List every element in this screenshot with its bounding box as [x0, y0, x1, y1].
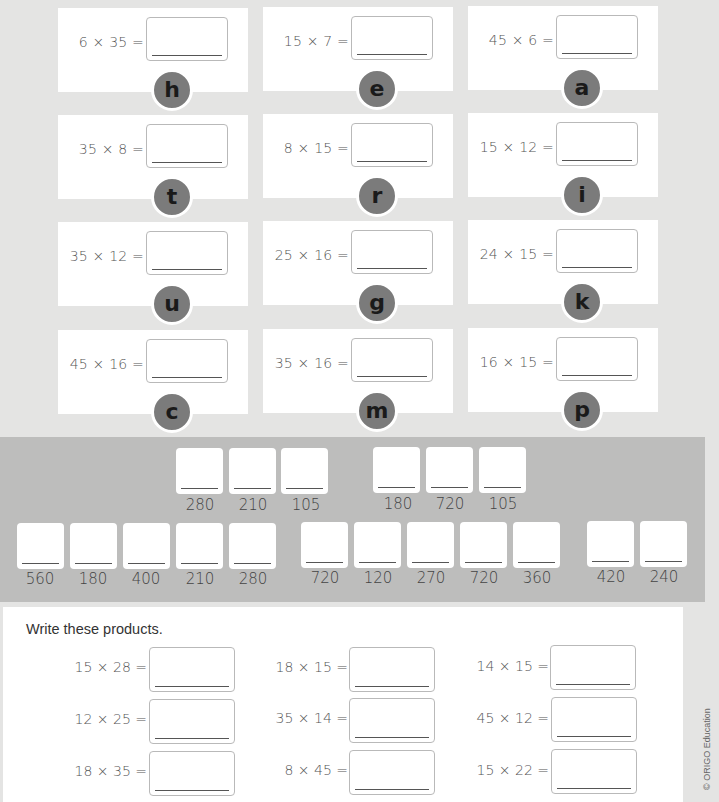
equation: 35 × 12 =	[70, 248, 144, 264]
equation: 35 × 8 =	[79, 141, 144, 157]
product-equation: 15 × 22 =	[439, 762, 549, 778]
code-card-c: 45 × 16 = c	[58, 330, 248, 414]
equation: 24 × 15 =	[480, 246, 554, 262]
equation: 15 × 12 =	[480, 139, 554, 155]
code-card-p: 16 × 15 = p	[468, 328, 658, 412]
decoder-number: 210	[225, 496, 281, 514]
answer-box[interactable]	[146, 124, 228, 168]
letter-badge: p	[561, 389, 603, 431]
decoder-box[interactable]	[587, 521, 634, 567]
equation: 45 × 16 =	[70, 356, 144, 372]
product-answer-box[interactable]	[149, 699, 235, 744]
letter-badge: i	[561, 174, 603, 216]
decoder-box[interactable]	[281, 448, 328, 494]
decoder-box[interactable]	[460, 522, 507, 568]
decoder-box[interactable]	[354, 522, 401, 568]
decoder-number: 210	[172, 570, 228, 588]
product-equation: 45 × 12 =	[439, 710, 549, 726]
answer-box[interactable]	[146, 17, 228, 61]
letter-badge: g	[356, 282, 398, 324]
decoder-number: 240	[636, 568, 692, 586]
answer-box[interactable]	[351, 16, 433, 60]
code-card-m: 35 × 16 = m	[263, 329, 453, 413]
answer-box[interactable]	[351, 123, 433, 167]
decoder-box[interactable]	[640, 521, 687, 567]
letter-badge: m	[356, 390, 398, 432]
decoder-box[interactable]	[176, 448, 223, 494]
product-answer-box[interactable]	[149, 647, 235, 692]
equation: 16 × 15 =	[480, 354, 554, 370]
product-equation: 35 × 14 =	[238, 710, 348, 726]
decoder-box[interactable]	[479, 447, 526, 493]
decoder-number: 120	[350, 569, 406, 587]
product-equation: 18 × 15 =	[238, 659, 348, 675]
code-card-h: 6 × 35 = h	[58, 8, 248, 92]
product-answer-box[interactable]	[349, 750, 435, 795]
decoder-box[interactable]	[17, 523, 64, 569]
decoder-box[interactable]	[70, 523, 117, 569]
answer-box[interactable]	[556, 337, 638, 381]
decoder-number: 360	[509, 569, 565, 587]
decoder-number: 280	[172, 496, 228, 514]
decoder-number: 420	[583, 568, 639, 586]
code-card-i: 15 × 12 = i	[468, 113, 658, 197]
products-panel: Write these products. 15 × 28 = 18 × 15 …	[3, 607, 683, 802]
decoder-band: 280 210 105 180 720 105 560 180 400 210 …	[0, 437, 705, 602]
decoder-number: 720	[297, 569, 353, 587]
answer-box[interactable]	[351, 338, 433, 382]
equation: 45 × 6 =	[489, 32, 554, 48]
code-card-e: 15 × 7 = e	[263, 7, 453, 91]
decoder-number: 560	[12, 570, 68, 588]
answer-box[interactable]	[146, 339, 228, 383]
answer-box[interactable]	[351, 230, 433, 274]
equation: 25 × 16 =	[275, 247, 349, 263]
decoder-number: 105	[278, 496, 334, 514]
product-equation: 8 × 45 =	[238, 762, 348, 778]
decoder-number: 720	[422, 495, 478, 513]
equation: 35 × 16 =	[275, 355, 349, 371]
letter-badge: t	[151, 176, 193, 218]
answer-box[interactable]	[556, 15, 638, 59]
instruction-text: Write these products.	[26, 621, 163, 637]
decoder-number: 270	[403, 569, 459, 587]
product-equation: 15 × 28 =	[37, 659, 147, 675]
equation: 15 × 7 =	[284, 33, 349, 49]
code-card-g: 25 × 16 = g	[263, 221, 453, 305]
product-answer-box[interactable]	[551, 697, 637, 742]
copyright-text: © ORIGO Education	[702, 708, 712, 790]
code-card-u: 35 × 12 = u	[58, 222, 248, 306]
answer-box[interactable]	[556, 229, 638, 273]
product-answer-box[interactable]	[550, 645, 636, 690]
decoder-box[interactable]	[229, 523, 276, 569]
letter-badge: a	[561, 67, 603, 109]
answer-box[interactable]	[556, 122, 638, 166]
product-answer-box[interactable]	[349, 647, 435, 692]
product-answer-box[interactable]	[149, 751, 235, 796]
equation: 6 × 35 =	[79, 34, 144, 50]
code-card-k: 24 × 15 = k	[468, 220, 658, 304]
letter-badge: r	[356, 175, 398, 217]
product-equation: 12 × 25 =	[37, 711, 147, 727]
decoder-box[interactable]	[123, 523, 170, 569]
decoder-box[interactable]	[229, 448, 276, 494]
decoder-box[interactable]	[373, 447, 420, 493]
decoder-box[interactable]	[176, 523, 223, 569]
decoder-box[interactable]	[301, 522, 348, 568]
equation: 8 × 15 =	[284, 140, 349, 156]
decoder-number: 105	[475, 495, 531, 513]
code-card-t: 35 × 8 = t	[58, 115, 248, 199]
product-answer-box[interactable]	[551, 749, 637, 794]
product-answer-box[interactable]	[349, 698, 435, 743]
decoder-box[interactable]	[513, 522, 560, 568]
decoder-number: 180	[370, 495, 426, 513]
answer-box[interactable]	[146, 231, 228, 275]
letter-badge: k	[561, 281, 603, 323]
decoder-number: 180	[65, 570, 121, 588]
decoder-number: 280	[225, 570, 281, 588]
letter-badge: e	[356, 68, 398, 110]
decoder-number: 400	[118, 570, 174, 588]
code-card-r: 8 × 15 = r	[263, 114, 453, 198]
decoder-box[interactable]	[407, 522, 454, 568]
decoder-box[interactable]	[426, 447, 473, 493]
letter-badge: c	[151, 391, 193, 433]
